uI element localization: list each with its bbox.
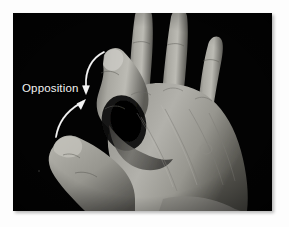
photo-vignette bbox=[13, 13, 272, 211]
hand-photograph bbox=[13, 13, 272, 211]
opposition-label: Opposition bbox=[22, 82, 78, 95]
photo-speck bbox=[38, 170, 40, 172]
figure-root: Opposition bbox=[0, 0, 289, 227]
photograph-plate bbox=[13, 13, 272, 211]
